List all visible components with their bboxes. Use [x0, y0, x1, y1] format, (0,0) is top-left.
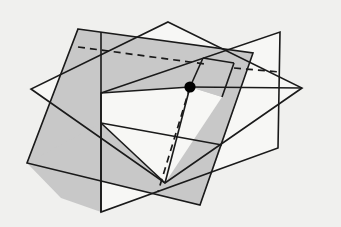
intersection-point-dot [184, 81, 195, 92]
geometry-figure-svg [0, 0, 341, 227]
intersection-line-point-right [190, 87, 302, 88]
geometry-figure-container [0, 0, 341, 227]
